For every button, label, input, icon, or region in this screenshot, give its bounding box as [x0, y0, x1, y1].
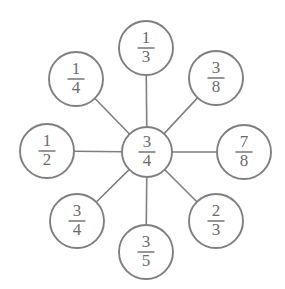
spoke-line-bottom-left	[97, 170, 129, 202]
fraction-denominator: 4	[143, 151, 152, 170]
fraction-numerator: 1	[142, 28, 151, 47]
fraction-numerator: 2	[212, 201, 221, 220]
spoke-line-top-right	[164, 98, 197, 133]
fraction-denominator: 8	[240, 151, 249, 170]
fraction-denominator: 5	[142, 251, 151, 270]
fraction-denominator: 4	[73, 220, 82, 239]
fraction-denominator: 3	[142, 47, 151, 66]
fraction-numerator: 3	[212, 58, 221, 77]
fraction-denominator: 8	[212, 77, 221, 96]
spoke-line-top-left	[95, 99, 129, 134]
center-node-group: 34	[122, 127, 172, 177]
fraction-denominator: 2	[43, 150, 52, 169]
fraction-numerator: 3	[143, 132, 152, 151]
fraction-node-bottom-left[interactable]: 34	[50, 194, 104, 248]
fraction-numerator: 1	[72, 59, 81, 78]
fraction-node-bottom[interactable]: 35	[119, 225, 173, 279]
fraction-numerator: 7	[240, 132, 249, 151]
fraction-node-center[interactable]: 34	[122, 127, 172, 177]
fraction-node-left[interactable]: 12	[20, 124, 74, 178]
fraction-node-right[interactable]: 78	[217, 125, 271, 179]
fraction-node-top-left[interactable]: 14	[49, 52, 103, 106]
fraction-denominator: 4	[72, 78, 81, 97]
fraction-node-top[interactable]: 13	[119, 21, 173, 75]
fraction-web-canvas: 1314381278343523 34	[0, 0, 285, 289]
fraction-node-top-right[interactable]: 38	[189, 51, 243, 105]
fraction-web-diagram: 1314381278343523 34	[0, 0, 285, 289]
spoke-line-bottom-right	[165, 170, 197, 202]
fraction-numerator: 1	[43, 131, 52, 150]
fraction-node-bottom-right[interactable]: 23	[189, 194, 243, 248]
fraction-denominator: 3	[212, 220, 221, 239]
fraction-numerator: 3	[73, 201, 82, 220]
fraction-numerator: 3	[142, 232, 151, 251]
